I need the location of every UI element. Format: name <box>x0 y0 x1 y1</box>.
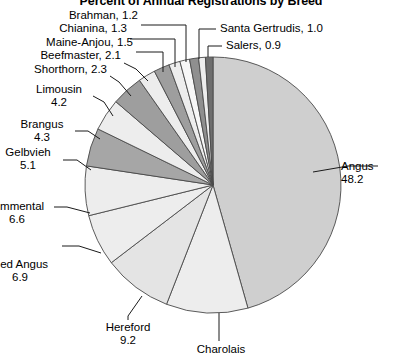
slice-label-chianina-text: Chianina, 1.3 <box>0 22 127 35</box>
slice-label-chianina: Chianina, 1.3 <box>0 22 127 35</box>
slice-label-red-angus-value: 6.9 <box>0 271 60 284</box>
slice-label-charolais: Charolais <box>176 343 266 356</box>
slice-label-shorthorn: Shorthorn, 2.3 <box>0 63 107 76</box>
slice-label-brahman: Brahman, 1.2 <box>0 9 138 22</box>
slice-label-hereford-name: Hereford <box>83 321 173 334</box>
slice-label-brahman-text: Brahman, 1.2 <box>0 9 138 22</box>
slice-label-limousin-name: Limousin <box>24 83 94 96</box>
slice-label-angus: Angus 48.2 <box>341 160 374 185</box>
slice-label-limousin-value: 4.2 <box>24 96 94 109</box>
slice-label-hereford: Hereford 9.2 <box>83 321 173 346</box>
leader-line-chianina <box>130 39 175 67</box>
slice-label-limousin: Limousin 4.2 <box>24 83 94 108</box>
slice-label-beefmaster-text: Beefmaster, 2.1 <box>0 49 121 62</box>
pie-slices-group <box>85 57 341 313</box>
slice-label-shorthorn-text: Shorthorn, 2.3 <box>0 63 107 76</box>
slice-label-simmental-value: 6.6 <box>0 213 56 226</box>
slice-label-brangus-name: Brangus <box>7 118 77 131</box>
slice-label-angus-value: 48.2 <box>341 173 374 186</box>
slice-label-brangus: Brangus 4.3 <box>7 118 77 143</box>
slice-label-gelbvieh-value: 5.1 <box>0 159 63 172</box>
slice-label-simmental-name: Simmental <box>0 200 56 213</box>
slice-label-red-angus-name: Red Angus <box>0 258 60 271</box>
slice-label-angus-name: Angus <box>341 160 374 173</box>
slice-label-simmental: Simmental 6.6 <box>0 200 56 225</box>
pie-chart-figure: Percent of Annual Registrations by Breed <box>0 0 402 361</box>
slice-label-gelbvieh: Gelbvieh 5.1 <box>0 146 63 171</box>
slice-label-beefmaster: Beefmaster, 2.1 <box>0 49 121 62</box>
leader-line-shorthorn <box>110 76 131 96</box>
leader-line-salers <box>208 46 222 57</box>
leader-line-simmental <box>54 207 90 213</box>
slice-label-maine-anjou-text: Maine-Anjou, 1.5 <box>0 36 133 49</box>
leader-line-hereford <box>128 296 142 320</box>
slice-label-gelbvieh-name: Gelbvieh <box>0 146 63 159</box>
slice-label-salers: Salers, 0.9 <box>226 39 281 52</box>
slice-label-santa-gertrudis: Santa Gertrudis, 1.0 <box>220 22 323 35</box>
slice-label-brangus-value: 4.3 <box>7 131 77 144</box>
slice-label-santa-gertrudis-text: Santa Gertrudis, 1.0 <box>220 22 323 35</box>
slice-label-salers-text: Salers, 0.9 <box>226 39 281 52</box>
slice-label-maine-anjou: Maine-Anjou, 1.5 <box>0 36 133 49</box>
slice-label-red-angus: Red Angus 6.9 <box>0 258 60 283</box>
slice-label-charolais-name: Charolais <box>176 343 266 356</box>
leader-line-red-angus <box>62 246 101 253</box>
slice-label-hereford-value: 9.2 <box>83 334 173 347</box>
